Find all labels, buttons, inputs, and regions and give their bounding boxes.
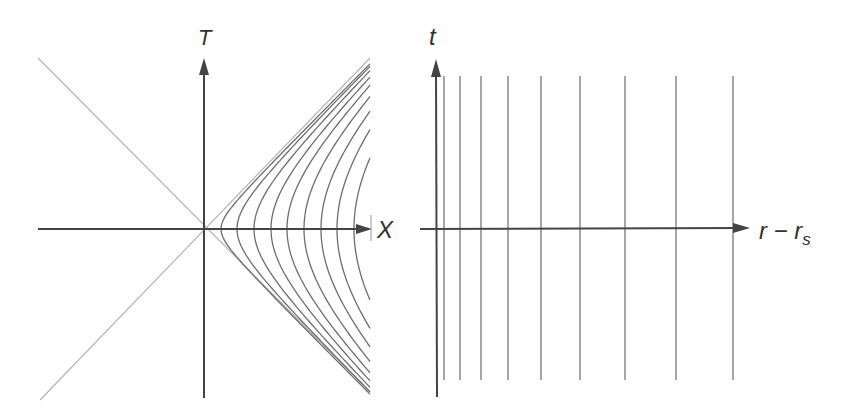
r-axis-label: r − rs xyxy=(759,217,811,249)
t-axis-line-lower xyxy=(436,70,437,397)
t-axis-arrowhead-icon xyxy=(199,58,209,75)
x-axis-arrowhead-icon xyxy=(356,224,372,234)
figure-canvas: T X t r − rs xyxy=(0,0,843,414)
r-axis-label-main: r − r xyxy=(759,217,803,244)
kruskal-diagram: T X xyxy=(38,25,394,400)
r-axis-line xyxy=(420,228,740,229)
t-axis-label-lower: t xyxy=(429,23,437,50)
right-axes xyxy=(420,59,750,397)
x-axis-label: X xyxy=(376,216,394,243)
r-axis-label-subscript: s xyxy=(802,230,811,249)
r-axis-arrowhead-icon xyxy=(733,223,750,233)
t-axis-arrowhead-lower-icon xyxy=(431,59,441,77)
schwarzschild-diagram: t r − rs xyxy=(420,23,811,397)
t-axis-label-upper: T xyxy=(198,25,213,50)
